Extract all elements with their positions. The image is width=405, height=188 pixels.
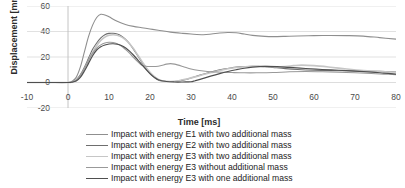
x-tick-label-70: 70 bbox=[342, 92, 368, 103]
legend-item-4[interactable]: Impact with energy E3 without additional… bbox=[0, 162, 398, 173]
x-tick-label-40: 40 bbox=[219, 92, 245, 103]
legend-item-1[interactable]: Impact with energy E1 with two additiona… bbox=[0, 129, 398, 140]
legend-item-label: Impact with energy E3 without additional… bbox=[111, 162, 288, 173]
legend-line-icon bbox=[86, 145, 108, 146]
x-tick-label-0: 0 bbox=[55, 92, 81, 103]
x-axis-title: Time [ms] bbox=[0, 117, 398, 127]
legend-item-label: Impact with energy E1 with two additiona… bbox=[111, 129, 292, 140]
legend-line-icon bbox=[86, 134, 108, 135]
x-tick-label-30: 30 bbox=[178, 92, 204, 103]
legend-item-5[interactable]: Impact with energy E3 with one additiona… bbox=[0, 173, 398, 184]
series-line-5 bbox=[27, 44, 396, 83]
legend-line-icon bbox=[86, 178, 108, 179]
y-axis-title: Displacement [mm] bbox=[9, 0, 19, 83]
chart-legend: Impact with energy E1 with two additiona… bbox=[0, 129, 398, 184]
legend-item-3[interactable]: Impact with energy E3 with two additiona… bbox=[0, 151, 398, 162]
legend-item-label: Impact with energy E3 with one additiona… bbox=[111, 173, 293, 184]
legend-line-icon bbox=[86, 167, 108, 168]
x-tick-label-20: 20 bbox=[137, 92, 163, 103]
legend-item-2[interactable]: Impact with energy E2 with two additiona… bbox=[0, 140, 398, 151]
x-tick-label--10: -10 bbox=[14, 92, 40, 103]
x-tick-label-60: 60 bbox=[301, 92, 327, 103]
legend-line-icon bbox=[86, 156, 108, 157]
x-tick-label-10: 10 bbox=[96, 92, 122, 103]
x-tick-label-group: -1001020304050607080 bbox=[27, 92, 399, 106]
x-tick-label-50: 50 bbox=[260, 92, 286, 103]
x-tick-label-80: 80 bbox=[383, 92, 405, 103]
legend-item-label: Impact with energy E2 with two additiona… bbox=[111, 140, 292, 151]
legend-item-label: Impact with energy E3 with two additiona… bbox=[111, 151, 292, 162]
